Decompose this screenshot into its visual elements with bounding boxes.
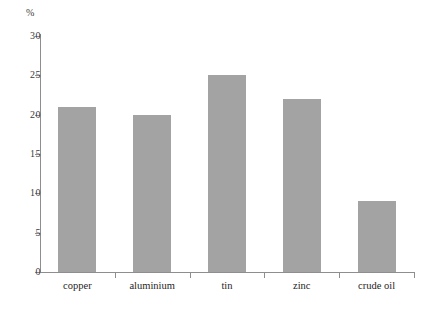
x-axis-tick-4 bbox=[339, 272, 340, 278]
bar-zinc bbox=[283, 99, 321, 272]
x-axis-label-aluminium: aluminium bbox=[115, 280, 190, 292]
bar-crude-oil bbox=[358, 201, 396, 272]
chart-page: % 051015202530 copperaluminiumtinzinccru… bbox=[0, 0, 426, 313]
x-axis-label-copper: copper bbox=[40, 280, 115, 292]
bar-copper bbox=[58, 107, 96, 272]
bar-aluminium bbox=[133, 115, 171, 272]
x-axis-tick-end bbox=[414, 272, 415, 278]
y-axis-tick-label-30: 30 bbox=[13, 31, 41, 41]
y-axis-tick-label-5: 5 bbox=[13, 228, 41, 238]
y-axis-tick-label-15: 15 bbox=[13, 149, 41, 159]
y-axis-tick-label-10: 10 bbox=[13, 188, 41, 198]
x-axis-line bbox=[40, 272, 414, 273]
y-axis-ticks: 051015202530 bbox=[0, 0, 41, 313]
plot-area bbox=[40, 36, 414, 272]
y-axis-tick-label-0: 0 bbox=[13, 267, 41, 277]
x-axis-tick-3 bbox=[264, 272, 265, 278]
x-axis-tick-1 bbox=[115, 272, 116, 278]
x-axis-tick-2 bbox=[190, 272, 191, 278]
y-axis-tick-label-20: 20 bbox=[13, 110, 41, 120]
y-axis-tick-label-25: 25 bbox=[13, 70, 41, 80]
bar-tin bbox=[208, 75, 246, 272]
x-axis-label-zinc: zinc bbox=[264, 280, 339, 292]
x-axis-label-tin: tin bbox=[190, 280, 265, 292]
x-axis-label-crude-oil: crude oil bbox=[339, 280, 414, 292]
